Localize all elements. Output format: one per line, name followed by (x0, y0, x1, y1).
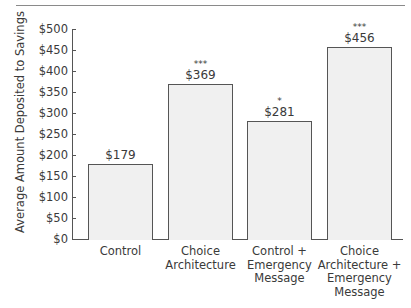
y-tick-label: $350 (39, 85, 68, 99)
y-tick-label: $100 (39, 190, 68, 204)
y-tick-label: $450 (39, 43, 68, 57)
y-tick (72, 134, 76, 135)
bar (88, 164, 153, 240)
y-tick-label: $300 (39, 106, 68, 120)
bar (247, 121, 312, 240)
value-text: $281 (264, 105, 295, 119)
y-tick (72, 218, 76, 219)
y-tick-label: $400 (39, 64, 68, 78)
bar-value-label: $179 (81, 149, 161, 162)
y-tick (72, 239, 76, 240)
bar-value-label: ***$369 (161, 60, 241, 82)
y-tick (72, 92, 76, 93)
y-tick (72, 113, 76, 114)
y-tick-label: $200 (39, 148, 68, 162)
x-category-label: Control + Emergency Message (234, 245, 326, 286)
y-tick-label: $50 (46, 211, 68, 225)
y-tick-label: $150 (39, 169, 68, 183)
bar-value-label: ***$456 (320, 23, 400, 45)
x-category-label: Control (75, 245, 167, 259)
x-category-label: Choice Architecture + Emergency Message (314, 245, 406, 299)
y-tick (72, 71, 76, 72)
y-tick (72, 50, 76, 51)
bar (168, 84, 233, 240)
bar-value-label: *$281 (240, 97, 320, 119)
value-text: $456 (344, 31, 375, 45)
y-tick-label: $0 (53, 232, 68, 246)
y-tick (72, 176, 76, 177)
value-text: $369 (185, 68, 216, 82)
y-tick-label: $500 (39, 22, 68, 36)
y-tick (72, 155, 76, 156)
y-tick-label: $250 (39, 127, 68, 141)
y-tick (72, 29, 76, 30)
y-tick (72, 197, 76, 198)
value-text: $179 (105, 148, 136, 162)
bar (327, 47, 392, 240)
top-rule (16, 5, 405, 6)
y-axis-label: Average Amount Deposited to Savings (13, 11, 27, 233)
